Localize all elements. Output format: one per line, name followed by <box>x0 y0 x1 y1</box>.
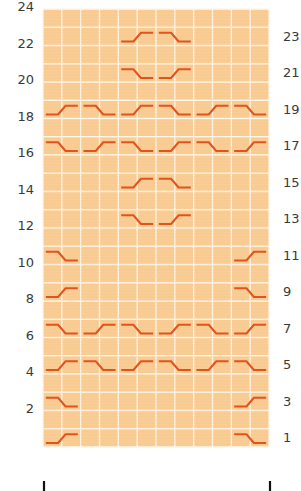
row-labels-right: 1357911131517192123 <box>283 29 300 446</box>
row-label-left: 14 <box>17 182 34 197</box>
row-label-right: 23 <box>283 29 300 44</box>
row-label-left: 18 <box>17 109 34 124</box>
row-label-right: 17 <box>283 138 300 153</box>
row-label-left: 6 <box>26 328 34 343</box>
row-label-left: 2 <box>26 401 34 416</box>
row-label-left: 12 <box>17 218 34 233</box>
row-label-left: 20 <box>17 72 34 87</box>
row-label-right: 15 <box>283 175 300 190</box>
row-label-right: 5 <box>283 357 291 372</box>
row-label-right: 1 <box>283 430 291 445</box>
row-label-right: 13 <box>283 211 300 226</box>
row-label-right: 9 <box>283 284 291 299</box>
row-label-left: 22 <box>17 36 34 51</box>
row-label-right: 19 <box>283 102 300 117</box>
row-label-left: 4 <box>26 364 34 379</box>
row-label-right: 3 <box>283 394 291 409</box>
row-label-left: 16 <box>17 145 34 160</box>
chart-grid <box>43 9 269 447</box>
knitting-chart: 24681012141618202224 1357911131517192123 <box>0 0 301 491</box>
row-label-right: 7 <box>283 321 291 336</box>
row-label-left: 24 <box>17 0 34 14</box>
repeat-marks <box>44 481 270 491</box>
row-label-left: 10 <box>17 255 34 270</box>
row-labels-left: 24681012141618202224 <box>17 0 34 416</box>
row-label-right: 21 <box>283 65 300 80</box>
row-label-right: 11 <box>283 248 300 263</box>
row-label-left: 8 <box>26 291 34 306</box>
